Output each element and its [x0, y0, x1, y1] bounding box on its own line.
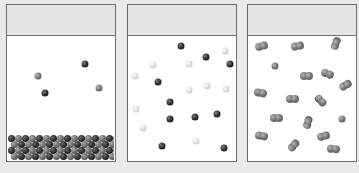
dark-atom: [192, 114, 199, 121]
lattice-atom: [39, 153, 46, 160]
container-headspace-3: [248, 5, 356, 36]
diatomic-molecule: [313, 93, 329, 109]
atom: [275, 114, 283, 122]
container-panel-2: [127, 4, 237, 162]
lattice-atom: [95, 153, 102, 160]
diatomic-molecule: [253, 88, 268, 98]
container-headspace-1: [7, 5, 115, 36]
atom: [332, 145, 341, 154]
light-atom: [132, 73, 139, 80]
light-atom: [204, 83, 211, 90]
light-atom: [186, 61, 193, 68]
lattice-atom: [109, 153, 114, 160]
dark-atom: [155, 79, 162, 86]
diatomic-molecule: [254, 131, 269, 141]
diatomic-molecule: [327, 144, 342, 153]
diatomic-molecule: [338, 78, 354, 92]
diatomic-molecule: [290, 41, 305, 51]
dark-atom: [82, 61, 89, 68]
atom: [325, 70, 335, 80]
dark-atom: [221, 145, 228, 152]
dark-atom: [214, 111, 221, 118]
diatomic-molecule: [316, 130, 332, 141]
lattice-atom: [60, 153, 67, 160]
dark-atom: [203, 54, 210, 61]
gray-atom: [96, 85, 103, 92]
lattice-atom: [11, 153, 18, 160]
lattice-atom: [46, 153, 53, 160]
lattice-row: [11, 153, 114, 160]
light-atom: [193, 138, 200, 145]
diatomic-molecule: [320, 68, 336, 80]
container-headspace-2: [128, 5, 236, 36]
diatomic-molecule: [300, 72, 314, 80]
atom: [295, 41, 304, 50]
lattice-atom: [53, 153, 60, 160]
dark-atom: [42, 90, 49, 97]
gray-atom: [272, 63, 279, 70]
light-atom: [150, 62, 157, 69]
gray-atom: [339, 116, 346, 123]
lattice-atom: [88, 153, 95, 160]
lattice-atom: [25, 153, 32, 160]
diatomic-molecule: [302, 114, 313, 130]
container-panel-3: [247, 4, 357, 162]
light-atom: [133, 106, 140, 113]
lattice-atom: [74, 153, 81, 160]
atom: [258, 89, 267, 98]
atom: [259, 132, 268, 141]
atom: [291, 95, 299, 103]
lattice-atom: [18, 153, 25, 160]
container-panel-1: [6, 4, 116, 162]
diatomic-molecule: [254, 40, 270, 51]
diatomic-molecule: [286, 137, 301, 153]
light-atom: [223, 86, 230, 93]
gray-atom: [35, 73, 42, 80]
dark-atom: [159, 143, 166, 150]
lattice-atom: [67, 153, 74, 160]
light-atom: [140, 125, 147, 132]
solid-lattice: [8, 135, 114, 160]
light-atom: [186, 87, 193, 94]
diatomic-molecule: [330, 35, 342, 51]
diatomic-molecule: [270, 114, 284, 122]
lattice-atom: [102, 153, 109, 160]
dark-atom: [178, 43, 185, 50]
light-atom: [222, 48, 229, 55]
lattice-atom: [81, 153, 88, 160]
dark-atom: [167, 99, 174, 106]
diatomic-molecule: [286, 95, 300, 103]
atom: [305, 72, 313, 80]
dark-atom: [227, 61, 234, 68]
dark-atom: [167, 116, 174, 123]
lattice-atom: [32, 153, 39, 160]
